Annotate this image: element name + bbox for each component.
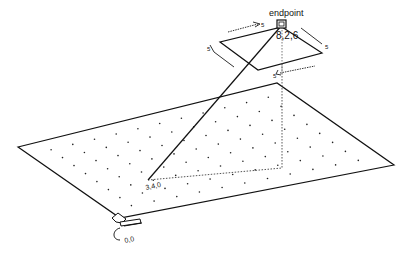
grid-dot <box>358 160 360 162</box>
grid-dot <box>249 125 251 127</box>
grid-dot <box>149 136 151 138</box>
grid-dot <box>230 152 232 154</box>
grid-dot <box>139 150 141 152</box>
grid-dot <box>108 189 110 191</box>
grid-dot <box>185 162 187 164</box>
grid-dot <box>312 169 314 171</box>
grid-dot <box>176 196 178 198</box>
grid-dot <box>284 129 286 131</box>
grid-dot <box>107 168 109 170</box>
grid-dot <box>183 140 185 142</box>
grid-dot <box>129 163 131 165</box>
grid-dot <box>202 112 204 114</box>
dimension-label-top-left: 5 <box>261 22 265 28</box>
grid-dot <box>322 155 324 157</box>
grid-dot <box>131 205 133 207</box>
grid-dot <box>195 148 197 150</box>
grid-dot <box>95 160 97 162</box>
grid-dot <box>209 178 211 180</box>
grid-dot <box>289 173 291 175</box>
grid-dot <box>215 121 217 123</box>
grid-dot <box>335 164 337 166</box>
grid-dot <box>141 171 143 173</box>
grid-dot <box>187 183 189 185</box>
grid-dot <box>130 184 132 186</box>
grid-dot <box>164 188 166 190</box>
ground-plane <box>18 83 394 218</box>
3d-diagram: endpoint 8,2,6 3,4,0 0,0 5 5 5 5 <box>0 0 416 263</box>
grid-dot <box>252 147 254 149</box>
grid-dot <box>220 165 222 167</box>
endpoint-plane <box>220 27 322 70</box>
grid-dot <box>50 149 52 151</box>
grid-dot <box>205 135 207 137</box>
grid-dot <box>293 115 295 117</box>
grid-dot <box>115 133 117 135</box>
grid-dot <box>73 165 75 167</box>
grid-dot <box>163 166 165 168</box>
grid-dot <box>84 152 86 154</box>
grid-dot <box>208 157 210 159</box>
grid-dot <box>199 191 201 193</box>
grid-dot <box>142 192 144 194</box>
grid-dot <box>246 102 248 104</box>
grid-dot <box>153 179 155 181</box>
grid-dot <box>153 200 155 202</box>
grid-dot <box>345 151 347 153</box>
endpoint-marker <box>277 20 286 28</box>
endpoint-coords-label: 8,2,6 <box>276 30 299 41</box>
grid-dot <box>237 116 239 118</box>
grid-dot <box>306 124 308 126</box>
grid-dot <box>85 173 87 175</box>
grid-dot <box>332 142 334 144</box>
grid-dot <box>175 175 177 177</box>
grid-dot <box>224 107 226 109</box>
start-coords-label: 3,4,0 <box>145 181 162 191</box>
grid-dot <box>259 111 261 113</box>
grid-dot <box>232 174 234 176</box>
endpoint-label: endpoint <box>269 8 304 18</box>
grid-dot <box>159 123 161 125</box>
grid-dot <box>197 170 199 172</box>
grid-dot <box>240 138 242 140</box>
grid-dot <box>287 151 289 153</box>
grid-dot <box>271 120 273 122</box>
grid-dot <box>244 182 246 184</box>
grid-dot <box>181 118 183 120</box>
dimension-label-right: 5 <box>325 44 329 50</box>
grid-dot <box>119 197 121 199</box>
grid-dot <box>274 142 276 144</box>
grid-dot <box>96 181 98 183</box>
grid-dot <box>173 153 175 155</box>
grid-dot <box>267 178 269 180</box>
grid-dot <box>319 133 321 135</box>
grid-dot <box>221 187 223 189</box>
grid-dot <box>277 165 279 167</box>
grid-dot <box>242 161 244 163</box>
vector-line <box>148 25 282 180</box>
grid-dot <box>137 128 139 130</box>
grid-dots <box>50 97 359 207</box>
grid-dot <box>118 176 120 178</box>
grid-dot <box>94 138 96 140</box>
dimension-label-left: 5 <box>207 46 211 52</box>
grid-dot <box>297 137 299 139</box>
grid-dot <box>151 158 153 160</box>
grid-dot <box>72 144 74 146</box>
grid-dot <box>227 130 229 132</box>
grid-dot <box>117 155 119 157</box>
dimension-arrow-top-left <box>228 22 260 32</box>
grid-dot <box>171 131 173 133</box>
grid-dot <box>62 157 64 159</box>
grid-dot <box>265 156 267 158</box>
grid-dot <box>218 143 220 145</box>
grid-dot <box>161 145 163 147</box>
grid-dot <box>300 160 302 162</box>
grid-dot <box>268 97 270 99</box>
grid-dot <box>262 133 264 135</box>
grid-dot <box>127 142 129 144</box>
grid-dot <box>309 146 311 148</box>
grid-dot <box>106 147 108 149</box>
origin-label: 0,0 <box>124 235 135 244</box>
